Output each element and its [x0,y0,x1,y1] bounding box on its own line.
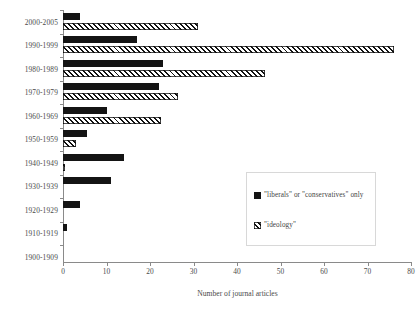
x-axis-tick [368,262,369,266]
bar-liberals-conservatives [63,13,80,20]
x-axis-tick-label: 30 [190,267,197,276]
y-axis-tick-label: 1920-1929 [25,205,58,214]
x-axis-title: Number of journal articles [63,289,412,298]
x-axis-tick-label: 80 [407,267,414,276]
x-axis-tick-label: 0 [61,267,65,276]
category-row: 1990-1999 [63,34,411,58]
y-axis-tick-label: 1960-1969 [25,111,58,120]
legend-item-ideology: "ideology" [254,221,296,229]
y-axis-tick-label: 1900-1909 [25,252,58,261]
y-axis-tick [60,10,63,11]
bar-liberals-conservatives [63,83,159,90]
y-axis-tick-label: 1980-1989 [25,64,58,73]
x-axis-tick [63,262,64,266]
bar-ideology [63,117,161,124]
y-axis-tick-label: 1930-1939 [25,182,58,191]
x-axis-tick-label: 70 [364,267,371,276]
hatched-square-swatch-icon [254,222,261,229]
y-axis-tick [60,175,63,176]
category-row: 2000-2005 [63,10,411,34]
bar-liberals-conservatives [63,36,137,43]
bar-ideology [63,93,178,100]
category-row: 1950-1959 [63,128,411,152]
x-axis-tick-label: 50 [277,267,284,276]
bar-chart: 2000-20051990-19991980-19891970-19791960… [0,0,419,312]
bar-liberals-conservatives [63,107,107,114]
bar-liberals-conservatives [63,60,163,67]
x-axis-tick [150,262,151,266]
bar-ideology [63,46,394,53]
y-axis-tick [60,245,63,246]
y-axis-tick [60,151,63,152]
legend-label: "liberals" or "conservatives" only [264,191,364,199]
bar-ideology [63,70,265,77]
y-axis-tick-label: 2000-2005 [25,17,58,26]
bar-ideology [63,164,65,171]
solid-square-swatch-icon [254,192,261,199]
legend-label: "ideology" [264,221,296,229]
bar-liberals-conservatives [63,201,80,208]
y-axis-tick-label: 1950-1959 [25,135,58,144]
y-axis-tick [60,222,63,223]
legend-item-liberals-conservatives: "liberals" or "conservatives" only [254,191,364,199]
y-axis-tick [60,128,63,129]
bar-liberals-conservatives [63,224,67,231]
x-axis-tick [411,262,412,266]
y-axis-tick [60,34,63,35]
category-row: 1970-1979 [63,81,411,105]
x-axis-tick [194,262,195,266]
y-axis-tick [60,57,63,58]
x-axis-tick [237,262,238,266]
category-row: 1980-1989 [63,57,411,81]
y-axis-tick [60,104,63,105]
x-axis-tick-label: 40 [233,267,240,276]
y-axis-tick-label: 1970-1979 [25,88,58,97]
x-axis-tick-label: 20 [146,267,153,276]
chart-legend: "liberals" or "conservatives" only "ideo… [246,172,376,246]
y-axis-tick-label: 1990-1999 [25,41,58,50]
category-row: 1940-1949 [63,151,411,175]
y-axis-tick-label: 1910-1919 [25,229,58,238]
bar-liberals-conservatives [63,154,124,161]
y-axis-tick-label: 1940-1949 [25,158,58,167]
category-row: 1960-1969 [63,104,411,128]
bar-liberals-conservatives [63,177,111,184]
bar-ideology [63,140,76,147]
y-axis-tick [60,81,63,82]
x-axis-tick-label: 60 [320,267,327,276]
x-axis-tick [281,262,282,266]
y-axis-tick [60,198,63,199]
x-axis-tick [324,262,325,266]
x-axis-tick-label: 10 [103,267,110,276]
x-axis-tick [107,262,108,266]
bar-ideology [63,23,198,30]
bar-liberals-conservatives [63,130,87,137]
